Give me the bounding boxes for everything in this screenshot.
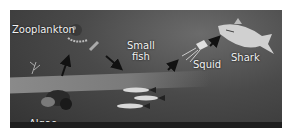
label-shark: Shark (231, 52, 260, 63)
arrow-squid-to-shark (210, 38, 218, 46)
bottom-strip (10, 122, 282, 128)
label-small-fish-line1: Small (127, 40, 155, 51)
small-fish-icon (117, 87, 165, 109)
algae-icon (41, 90, 72, 110)
arrow-fish-to-squid (168, 62, 176, 70)
shark-icon (218, 18, 274, 54)
arrow-zooplankton-to-fish (106, 56, 120, 68)
label-small-fish-line2: fish (127, 51, 155, 62)
label-small-fish: Small fish (127, 40, 155, 62)
food-chain-panel: Zooplankton Small fish Squid Shark Algae (10, 10, 282, 128)
arrow-algae-to-zooplankton (62, 58, 68, 76)
plankton-plant-icon (30, 62, 40, 74)
label-zooplankton: Zooplankton (12, 24, 75, 35)
label-squid: Squid (193, 59, 221, 70)
